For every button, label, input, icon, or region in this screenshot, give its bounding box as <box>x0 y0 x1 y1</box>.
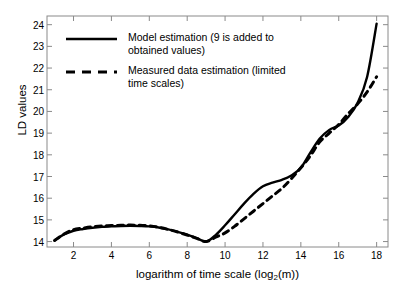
figure-chart: LD values logarithm of time scale (log2(… <box>0 0 408 298</box>
legend-samples <box>66 39 117 72</box>
legend-label-measured: Measured data estimation (limited time s… <box>128 64 286 89</box>
legend-label-model: Model estimation (9 is added to obtained… <box>128 31 274 56</box>
series-measured-data <box>55 77 377 242</box>
y-axis-tickmarks <box>47 25 388 242</box>
data-series-layer <box>55 24 377 242</box>
